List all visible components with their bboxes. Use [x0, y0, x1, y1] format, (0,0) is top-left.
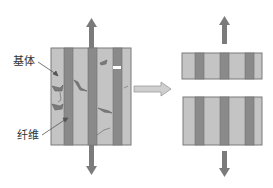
fiber-break-gap	[113, 66, 121, 69]
down-arrow-head	[219, 168, 230, 177]
up-arrow-shaft	[222, 23, 227, 44]
up-arrow-shaft	[89, 25, 94, 48]
fiber-3	[113, 48, 122, 145]
lower-fiber-3	[245, 97, 254, 145]
fiber-label: 纤维	[17, 130, 39, 141]
lower-piece	[183, 97, 262, 145]
intact-composite	[38, 18, 131, 175]
fiber-2	[88, 48, 97, 145]
down-arrow-shaft	[89, 145, 94, 168]
upper-fiber-2	[220, 53, 229, 79]
down-arrow-shaft	[222, 151, 227, 170]
matrix-label: 基体	[13, 56, 35, 67]
composite-fracture-diagram	[0, 0, 273, 188]
upper-fiber-3	[245, 53, 254, 79]
up-arrow-head	[219, 16, 230, 25]
lower-fiber-2	[220, 97, 229, 145]
fractured-composite	[182, 16, 262, 177]
upper-piece	[182, 53, 262, 79]
lower-fiber-1	[195, 97, 204, 145]
fiber-1	[64, 48, 73, 145]
up-arrow-head	[86, 18, 97, 27]
down-arrow-head	[86, 166, 97, 175]
upper-fiber-1	[195, 53, 204, 79]
process-arrow	[134, 82, 171, 96]
